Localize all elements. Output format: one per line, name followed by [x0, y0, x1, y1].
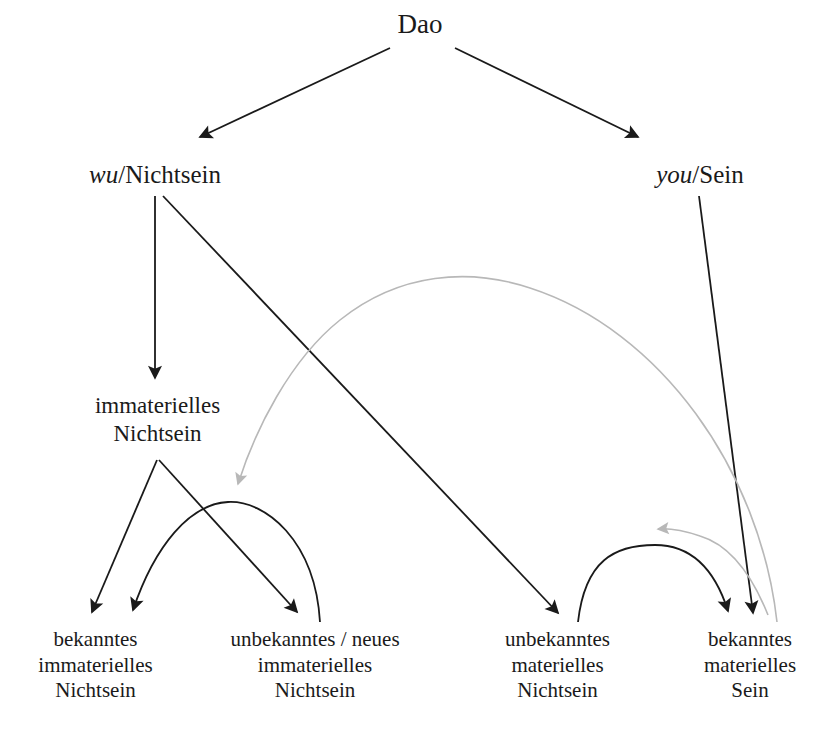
node-unbekanntes-neues-immaterielles-nichtsein: unbekanntes / neues immaterielles Nichts…: [185, 627, 445, 704]
node-dao: Dao: [340, 8, 500, 41]
node-bekanntes-immaterielles-nichtsein: bekanntes immaterielles Nichtsein: [8, 627, 183, 704]
node-unbekanntes-neues-immaterielles-nichtsein-line2: immaterielles: [185, 653, 445, 679]
node-wu-rest: /Nichtsein: [118, 161, 221, 188]
node-unbekanntes-materielles-nichtsein: unbekanntes materielles Nichtsein: [470, 627, 645, 704]
node-unbekanntes-neues-immaterielles-nichtsein-line3: Nichtsein: [185, 678, 445, 704]
node-immaterielles-nichtsein-line2: Nichtsein: [55, 420, 260, 448]
edge-unbekanntes-materielles-to-bekanntes-materielles-curve: [578, 545, 728, 622]
node-wu-nichtsein: wu/Nichtsein: [45, 160, 265, 191]
node-unbekanntes-neues-immaterielles-nichtsein-line1: unbekanntes / neues: [185, 627, 445, 653]
edge-immaterielles-to-bekanntes-immaterielles: [92, 460, 157, 612]
node-bekanntes-immaterielles-nichtsein-line3: Nichtsein: [8, 678, 183, 704]
node-you-italic: you: [656, 161, 692, 188]
edge-dao-to-you: [455, 48, 638, 137]
node-bekanntes-materielles-sein-line2: materielles: [675, 653, 825, 679]
node-immaterielles-nichtsein: immaterielles Nichtsein: [55, 392, 260, 448]
node-unbekanntes-materielles-nichtsein-line3: Nichtsein: [470, 678, 645, 704]
node-bekanntes-materielles-sein-line1: bekanntes: [675, 627, 825, 653]
edge-unbekanntes-neues-to-bekanntes-immaterielles-curve: [133, 502, 320, 622]
diagram-edges-layer: [0, 0, 834, 730]
node-immaterielles-nichtsein-line1: immaterielles: [55, 392, 260, 420]
node-unbekanntes-materielles-nichtsein-line1: unbekanntes: [470, 627, 645, 653]
node-bekanntes-immaterielles-nichtsein-line1: bekanntes: [8, 627, 183, 653]
node-bekanntes-immaterielles-nichtsein-line2: immaterielles: [8, 653, 183, 679]
node-you-sein-label: you/Sein: [600, 160, 800, 191]
node-wu-italic: wu: [89, 161, 118, 188]
edge-dao-to-wu: [200, 48, 390, 137]
diagram-canvas: Dao wu/Nichtsein you/Sein immaterielles …: [0, 0, 834, 730]
node-you-sein: you/Sein: [600, 160, 800, 191]
node-wu-nichtsein-label: wu/Nichtsein: [45, 160, 265, 191]
node-unbekanntes-materielles-nichtsein-line2: materielles: [470, 653, 645, 679]
edge-immaterielles-to-unbekanntes-neues-immaterielles: [159, 460, 297, 612]
node-bekanntes-materielles-sein: bekanntes materielles Sein: [675, 627, 825, 704]
node-bekanntes-materielles-sein-line3: Sein: [675, 678, 825, 704]
node-dao-label: Dao: [340, 8, 500, 41]
edge-bekanntes-materielles-sein-to-immaterielles-long-curve: [238, 277, 777, 622]
node-you-rest: /Sein: [692, 161, 743, 188]
